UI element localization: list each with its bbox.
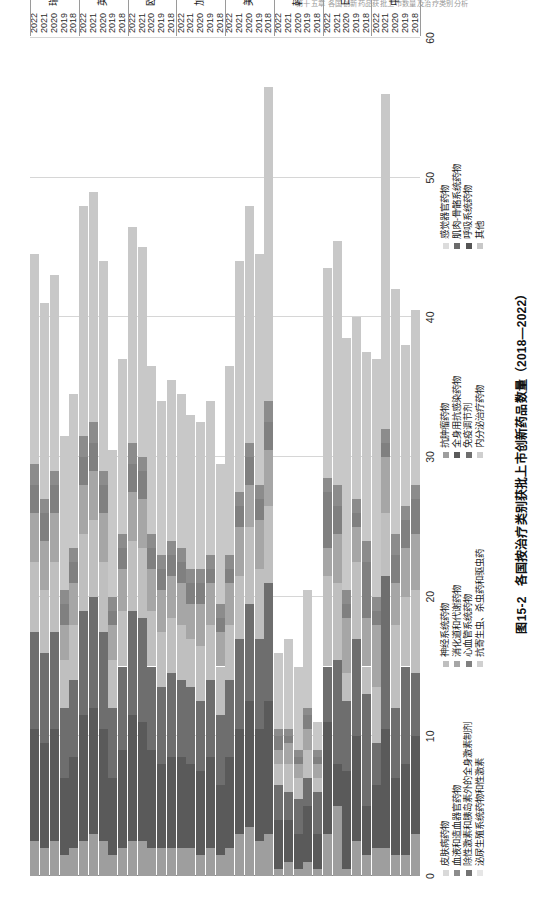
legend-swatch-icon xyxy=(443,243,449,249)
bar-segment xyxy=(118,569,127,611)
bar-segment xyxy=(225,555,234,569)
bar-segment xyxy=(323,478,332,492)
bar-segment xyxy=(30,632,39,730)
bar-segment xyxy=(303,862,312,876)
bar-segment xyxy=(186,415,195,569)
year-tick-label: 2018 xyxy=(68,13,78,33)
bar-segment xyxy=(79,534,88,611)
bar-segment xyxy=(352,527,361,562)
bar-segment xyxy=(157,590,166,632)
legend-swatch-icon xyxy=(454,870,460,876)
bar-segment xyxy=(50,632,59,730)
bar-segment xyxy=(294,799,303,834)
bar-row xyxy=(50,38,59,876)
bar-segment xyxy=(157,401,166,555)
bar-segment xyxy=(128,611,137,716)
group-separator xyxy=(371,0,372,36)
legend-label: 血液和造血器官药物 xyxy=(452,785,462,866)
bar-segment xyxy=(411,674,420,737)
bar-segment xyxy=(352,317,361,499)
bar-segment xyxy=(411,499,420,534)
bar-segment xyxy=(50,562,59,632)
bar-segment xyxy=(138,841,147,876)
year-tick-label: 2018 xyxy=(312,13,322,33)
bar-segment xyxy=(40,513,49,541)
bar-segment xyxy=(167,674,176,758)
bar-segment xyxy=(274,764,283,785)
bar-segment xyxy=(147,366,156,534)
bar-segment xyxy=(118,359,127,534)
legend-swatch-icon xyxy=(443,870,449,876)
bar-row xyxy=(352,38,361,876)
year-tick-label: 2021 xyxy=(332,13,342,33)
group-label: 加拿大 xyxy=(195,0,205,6)
bar-row xyxy=(167,38,176,876)
bar-segment xyxy=(372,625,381,688)
bar-segment xyxy=(294,834,303,869)
bar-segment xyxy=(128,227,137,443)
bar-segment xyxy=(352,841,361,876)
bar-segment xyxy=(352,736,361,841)
bar-row xyxy=(362,38,371,876)
bar-row xyxy=(186,38,195,876)
bar-segment xyxy=(274,653,283,730)
bar-segment xyxy=(196,701,205,771)
bar-segment xyxy=(167,576,176,618)
bar-segment xyxy=(411,485,420,499)
bar-segment xyxy=(147,750,156,848)
bar-segment xyxy=(157,764,166,848)
legend-item: 感觉器官药物 xyxy=(440,40,450,249)
bar-segment xyxy=(138,457,147,471)
bar-row xyxy=(294,38,303,876)
bar-segment xyxy=(157,569,166,590)
year-tick-label: 2018 xyxy=(263,13,273,33)
bar-segment xyxy=(323,667,332,723)
bar-segment xyxy=(128,715,137,841)
bar-segment xyxy=(30,464,39,485)
bar-segment xyxy=(206,401,215,555)
bar-segment xyxy=(391,534,400,555)
bar-row xyxy=(245,38,254,876)
value-tick-label: 40 xyxy=(424,297,436,337)
bar-segment xyxy=(89,520,98,597)
bar-segment xyxy=(274,820,283,869)
bar-segment xyxy=(216,632,225,667)
year-tick-label: 2021 xyxy=(234,13,244,33)
legend-swatch-icon xyxy=(477,661,483,667)
bar-row xyxy=(138,38,147,876)
group-label: 中国 xyxy=(390,0,400,6)
bar-segment xyxy=(118,611,127,667)
bar-segment xyxy=(235,492,244,506)
bar-row xyxy=(30,38,39,876)
bar-segment xyxy=(225,848,234,876)
bar-segment xyxy=(108,708,117,778)
legend-item: 免疫调节剂 xyxy=(463,249,473,458)
bar-segment xyxy=(216,715,225,785)
bar-segment xyxy=(235,639,244,730)
bar-row xyxy=(411,38,420,876)
bar-segment xyxy=(40,743,49,848)
bar-segment xyxy=(177,680,186,757)
bar-segment xyxy=(147,569,156,611)
legend-item: 其他 xyxy=(475,40,485,249)
bar-segment xyxy=(264,450,273,506)
bar-segment xyxy=(196,583,205,604)
bar-segment xyxy=(352,513,361,527)
bar-segment xyxy=(128,841,137,876)
bar-segment xyxy=(157,848,166,876)
bar-segment xyxy=(177,583,186,625)
bar-segment xyxy=(206,583,215,625)
bar-segment xyxy=(313,778,322,792)
legend-item: 泌尿生殖系统药物和性激素 xyxy=(475,667,485,876)
bar-segment xyxy=(372,848,381,876)
bar-segment xyxy=(274,736,283,750)
bar-segment xyxy=(196,646,205,702)
bar-segment xyxy=(313,764,322,778)
bar-segment xyxy=(313,750,322,757)
bar-segment xyxy=(333,660,342,765)
bar-segment xyxy=(177,548,186,562)
bar-segment xyxy=(294,667,303,751)
bar-segment xyxy=(362,694,371,806)
bar-segment xyxy=(333,506,342,534)
bar-segment xyxy=(264,701,273,834)
